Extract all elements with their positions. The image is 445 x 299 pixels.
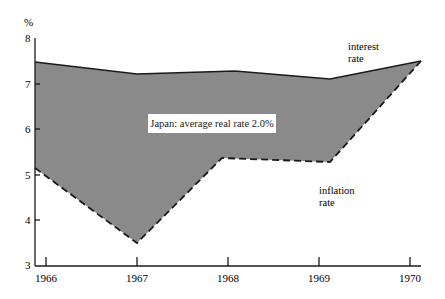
- real-rate-area: [35, 61, 421, 243]
- x-tick-label: 1969: [308, 272, 331, 284]
- interest-rate-annotation: interest: [348, 41, 379, 52]
- x-ticks: [46, 257, 410, 266]
- x-tick-label: 1966: [35, 272, 58, 284]
- y-tick-label: 6: [25, 123, 31, 135]
- real-rate-callout: Japan: average real rate 2.0%: [148, 114, 276, 133]
- y-tick-label: 5: [25, 169, 31, 181]
- y-tick-label: 7: [25, 78, 31, 90]
- interest-rate-annotation: rate: [348, 53, 364, 64]
- x-tick-label: 1967: [126, 272, 149, 284]
- x-tick-label: 1968: [217, 272, 240, 284]
- chart-canvas: % 8 7 6 5 4 3 1966 1967 1968 1969 1970 i…: [0, 0, 445, 299]
- inflation-rate-annotation: inflation: [319, 185, 355, 196]
- y-tick-label: 4: [25, 214, 31, 226]
- x-tick-label: 1970: [399, 272, 422, 284]
- inflation-rate-annotation: rate: [319, 197, 335, 208]
- y-unit-label: %: [24, 16, 33, 28]
- y-tick-label: 8: [25, 32, 31, 44]
- y-tick-label: 3: [25, 259, 31, 271]
